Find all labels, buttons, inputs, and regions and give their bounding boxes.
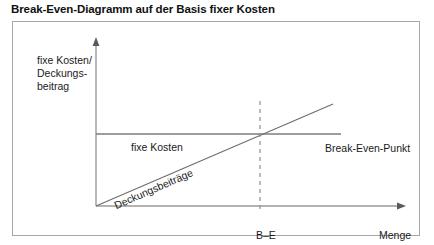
y-axis-label-line-3: beitrag: [37, 80, 69, 92]
y-axis-label-line-1: fixe Kosten/: [37, 54, 92, 66]
x-axis-label: Menge: [379, 229, 411, 242]
break-even-tick-label: B–E: [256, 229, 276, 242]
x-axis: [96, 203, 406, 210]
break-even-point-label: Break-Even-Punkt: [325, 142, 410, 155]
chart-frame: fixe Kosten/Deckungs-beitrag fixe Kosten…: [12, 21, 420, 236]
y-axis: [93, 37, 100, 206]
y-axis-label-line-2: Deckungs-: [37, 67, 87, 79]
fixed-cost-label: fixe Kosten: [131, 141, 183, 154]
y-axis-label: fixe Kosten/Deckungs-beitrag: [37, 54, 92, 93]
diagram-root: Break-Even-Diagramm auf der Basis fixer …: [0, 0, 434, 245]
page-title: Break-Even-Diagramm auf der Basis fixer …: [11, 3, 275, 15]
